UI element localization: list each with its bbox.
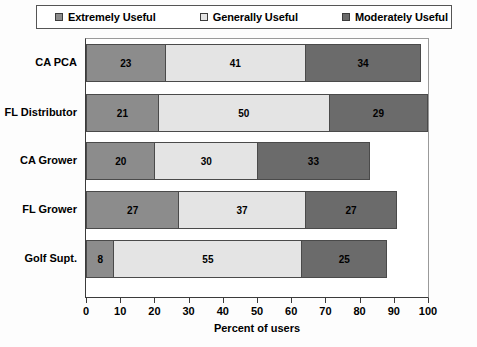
x-tick-60	[291, 298, 292, 303]
bar-segment[interactable]: 50	[158, 94, 329, 132]
x-tick-0	[86, 298, 87, 303]
legend-swatch-icon-2	[342, 13, 350, 21]
x-tick-label-80: 80	[353, 305, 365, 317]
chart-canvas: Extremely UsefulGenerally UsefulModerate…	[0, 0, 477, 347]
bar-segment[interactable]: 41	[165, 44, 305, 82]
legend-label-1: Generally Useful	[213, 11, 298, 23]
x-tick-label-50: 50	[251, 305, 263, 317]
bar-segment[interactable]: 55	[113, 240, 301, 278]
x-tick-90	[394, 298, 395, 303]
stacked-bar-4[interactable]: 85525	[86, 240, 387, 278]
x-tick-label-60: 60	[285, 305, 297, 317]
category-label-3: FL Grower	[22, 204, 86, 215]
category-label-4: Golf Supt.	[24, 253, 86, 264]
bar-segment[interactable]: 20	[86, 142, 154, 180]
x-tick-label-10: 10	[114, 305, 126, 317]
bar-value-label: 30	[201, 156, 212, 167]
x-tick-label-0: 0	[83, 305, 89, 317]
category-label-2: CA Grower	[20, 155, 86, 166]
x-tick-100	[428, 298, 429, 303]
bar-segment[interactable]: 29	[329, 94, 428, 132]
stacked-bar-3[interactable]: 273727	[86, 191, 397, 229]
plot-area: CA PCA234134FL Distributor215029CA Growe…	[85, 38, 429, 298]
bar-value-label: 23	[120, 58, 131, 69]
bar-value-label: 27	[345, 205, 356, 216]
bar-value-label: 29	[373, 108, 384, 119]
category-label-1: FL Distributor	[4, 107, 86, 118]
x-tick-70	[325, 298, 326, 303]
bar-value-label: 37	[237, 205, 248, 216]
bar-segment[interactable]: 8	[86, 240, 113, 278]
bar-row: CA PCA234134	[86, 44, 428, 82]
legend-swatch-icon-1	[200, 13, 208, 21]
bar-segment[interactable]: 37	[178, 191, 305, 229]
x-tick-label-30: 30	[182, 305, 194, 317]
x-tick-30	[189, 298, 190, 303]
bar-segment[interactable]: 27	[305, 191, 397, 229]
chart-legend: Extremely UsefulGenerally UsefulModerate…	[36, 5, 452, 29]
x-axis-ticks	[85, 298, 429, 304]
bar-value-label: 27	[127, 205, 138, 216]
bar-segment[interactable]: 23	[86, 44, 165, 82]
legend-item-1: Generally Useful	[200, 11, 298, 23]
bar-value-label: 25	[339, 254, 350, 265]
bar-value-label: 8	[97, 254, 103, 265]
bar-row: FL Grower273727	[86, 191, 428, 229]
bar-row: CA Grower203033	[86, 142, 428, 180]
bar-value-label: 34	[357, 58, 368, 69]
bar-row: Golf Supt.85525	[86, 240, 428, 278]
x-tick-40	[223, 298, 224, 303]
x-axis-title: Percent of users	[85, 322, 429, 334]
x-tick-label-90: 90	[388, 305, 400, 317]
x-tick-50	[257, 298, 258, 303]
stacked-bar-1[interactable]: 215029	[86, 94, 428, 132]
bar-segment[interactable]: 30	[154, 142, 257, 180]
bar-segment[interactable]: 33	[257, 142, 370, 180]
legend-label-0: Extremely Useful	[68, 11, 156, 23]
x-tick-label-40: 40	[217, 305, 229, 317]
bar-row: FL Distributor215029	[86, 94, 428, 132]
legend-swatch-icon-0	[55, 13, 63, 21]
bar-segment[interactable]: 27	[86, 191, 178, 229]
x-axis-tick-labels: 0102030405060708090100	[85, 305, 429, 319]
x-tick-20	[154, 298, 155, 303]
bar-segment[interactable]: 25	[301, 240, 387, 278]
bar-segment[interactable]: 34	[305, 44, 421, 82]
bar-value-label: 55	[202, 254, 213, 265]
stacked-bar-2[interactable]: 203033	[86, 142, 370, 180]
bar-value-label: 20	[115, 156, 126, 167]
bar-segment[interactable]: 21	[86, 94, 158, 132]
x-tick-80	[360, 298, 361, 303]
bar-value-label: 41	[230, 58, 241, 69]
bar-value-label: 33	[308, 156, 319, 167]
x-tick-label-100: 100	[419, 305, 437, 317]
legend-item-0: Extremely Useful	[55, 11, 156, 23]
legend-item-2: Moderately Useful	[342, 11, 448, 23]
bar-rows: CA PCA234134FL Distributor215029CA Growe…	[86, 39, 428, 297]
x-tick-label-20: 20	[148, 305, 160, 317]
bar-value-label: 50	[238, 108, 249, 119]
x-tick-label-70: 70	[319, 305, 331, 317]
bar-value-label: 21	[117, 108, 128, 119]
category-label-0: CA PCA	[35, 57, 86, 68]
x-tick-10	[120, 298, 121, 303]
legend-label-2: Moderately Useful	[355, 11, 448, 23]
stacked-bar-0[interactable]: 234134	[86, 44, 421, 82]
